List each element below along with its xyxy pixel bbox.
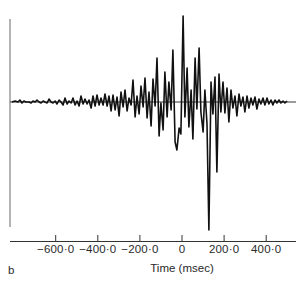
x-tick-label: 400·0 bbox=[251, 243, 281, 255]
panel-label: b bbox=[8, 264, 14, 276]
waveform-line bbox=[12, 16, 287, 230]
x-tick-label: −600·0 bbox=[37, 243, 74, 255]
x-tick-label: −200·0 bbox=[121, 243, 158, 255]
x-tick-label: 200·0 bbox=[209, 243, 239, 255]
x-tick-label: −400·0 bbox=[79, 243, 116, 255]
x-axis-title: Time (msec) bbox=[150, 262, 213, 274]
x-tick-label: 0 bbox=[179, 243, 186, 255]
x-axis-ticks bbox=[56, 235, 267, 242]
